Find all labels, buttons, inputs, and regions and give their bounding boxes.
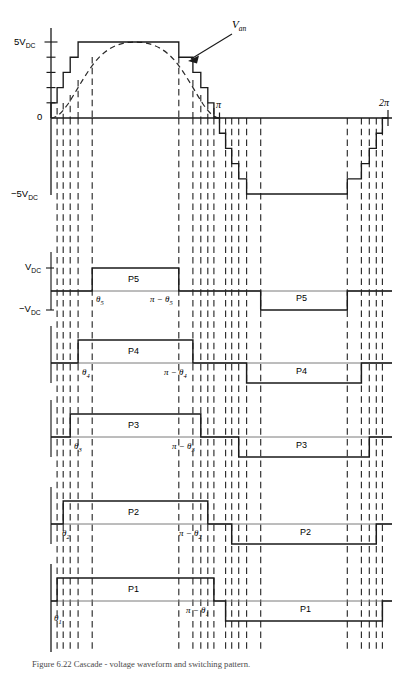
p5-pulse-label-positive: P5 (128, 274, 139, 284)
p3-theta-label: θ3 (74, 441, 82, 453)
p4-theta-label: θ4 (82, 367, 90, 379)
p1-pulse-label-positive: P1 (128, 584, 139, 594)
waveform-figure-svg (0, 0, 420, 675)
figure-caption: Figure 6.22 Cascade - voltage waveform a… (32, 659, 250, 669)
van-annotation-arrow-line (191, 34, 232, 59)
figure-container: 5VDC 0 −5VDC VDC −VDC π 2π Van P5 P5 θ5 … (0, 0, 420, 675)
fundamental-sine-dashed (51, 42, 220, 118)
p2-pulse-label-negative: P2 (300, 527, 311, 537)
p5-pulse-label-negative: P5 (296, 293, 307, 303)
p1-theta-complement-label: π − θ1 (186, 605, 209, 617)
p5-theta-complement-label: π − θ5 (150, 294, 173, 306)
y-axis-label-neg5vdc: −5VDC (11, 188, 38, 201)
p4-theta-complement-label: π − θ4 (164, 367, 187, 379)
p3-pulse-waveform (51, 414, 392, 457)
p2-pulse-waveform (51, 501, 392, 544)
x-axis-label-pi: π (216, 99, 221, 110)
y-axis-label-negvdc: −VDC (19, 303, 41, 316)
p1-pulse-label-negative: P1 (300, 604, 311, 614)
switching-angle-dashed-lines (57, 118, 382, 652)
y-axis-label-vdc: VDC (25, 261, 41, 274)
p4-pulse-label-positive: P4 (128, 346, 139, 356)
p2-theta-label: θ2 (62, 528, 70, 540)
p1-pulse-waveform (51, 578, 392, 621)
switching-angle-dashed-lines-upper (57, 57, 214, 118)
p1-theta-label: θ1 (54, 613, 62, 625)
p4-pulse-label-negative: P4 (296, 366, 307, 376)
van-annotation-label: Van (232, 18, 246, 33)
p2-pulse-label-positive: P2 (128, 507, 139, 517)
p3-pulse-label-negative: P3 (296, 440, 307, 450)
p3-theta-complement-label: π − θ3 (172, 441, 195, 453)
p3-pulse-label-positive: P3 (128, 420, 139, 430)
p2-theta-complement-label: π − θ2 (179, 528, 202, 540)
y-axis-label-zero: 0 (37, 111, 42, 122)
p5-theta-label: θ5 (96, 294, 104, 306)
y-axis-label-5vdc: 5VDC (14, 36, 35, 49)
x-axis-label-2pi: 2π (379, 97, 389, 108)
p4-pulse-waveform (51, 340, 392, 383)
p5-level-ticks (46, 268, 54, 310)
